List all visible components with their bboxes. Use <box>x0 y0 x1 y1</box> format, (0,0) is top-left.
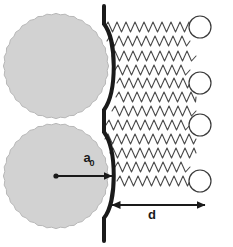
diagram-canvas: a 0 d <box>0 0 233 247</box>
polymer-chain <box>105 22 190 32</box>
polymer-chain <box>117 78 190 88</box>
polymer-chain <box>110 148 196 158</box>
polymer-brush-diagram: a 0 d <box>0 0 233 247</box>
polymer-chain <box>105 134 196 144</box>
polymer-chain-layer <box>105 22 196 186</box>
sphere-layer <box>3 13 108 228</box>
polymer-chain <box>117 176 190 186</box>
end-group-circle <box>189 72 211 94</box>
end-group-circle <box>189 16 211 38</box>
polymer-chain <box>107 36 190 46</box>
polymer-chain <box>112 51 196 61</box>
end-group-layer <box>189 16 211 192</box>
end-group-circle <box>189 114 211 136</box>
polymer-chain <box>106 120 190 130</box>
upper-sphere <box>3 13 108 118</box>
end-group-circle <box>189 170 211 192</box>
polymer-chain <box>116 92 196 102</box>
distance-label: d <box>148 207 156 222</box>
polymer-chain <box>115 162 190 172</box>
radius-subscript-text: 0 <box>89 158 94 168</box>
distance-symbol-text: d <box>148 207 156 222</box>
polymer-chain <box>115 65 190 75</box>
polymer-chain <box>112 106 196 116</box>
